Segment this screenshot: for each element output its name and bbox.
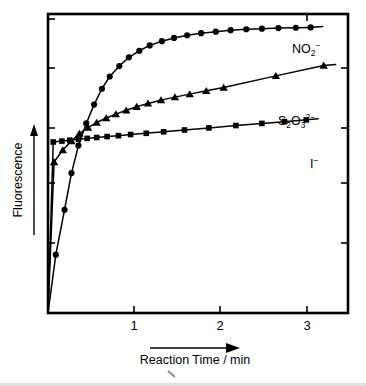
data-point-square	[84, 136, 90, 142]
x-axis-title: Reaction Time / min	[140, 353, 251, 367]
data-point-circle	[243, 26, 249, 32]
data-point-square	[128, 132, 134, 138]
data-point-circle	[126, 54, 132, 60]
data-point-square	[233, 123, 239, 129]
data-point-triangle	[92, 119, 100, 126]
data-point-square	[116, 133, 122, 139]
x-tick-label-3: 3	[303, 318, 310, 333]
data-point-circle	[147, 42, 153, 48]
scan-speck	[168, 371, 175, 377]
series-label-no2: NO2−	[292, 40, 320, 58]
data-point-square	[206, 125, 212, 131]
data-point-square	[94, 135, 100, 141]
series-line-triangle	[48, 65, 324, 313]
series-label-iodide-text: I−	[310, 155, 318, 171]
data-point-circle	[171, 35, 177, 41]
data-point-circle	[99, 86, 105, 92]
data-point-square	[59, 138, 65, 144]
data-point-square	[50, 139, 56, 145]
x-axis-arrow-head	[226, 343, 240, 353]
data-point-circle	[159, 38, 165, 44]
data-point-square	[67, 137, 73, 143]
series-labels: NO2− S2O32− I−	[278, 40, 320, 171]
series-line-circle	[48, 27, 311, 313]
data-point-square	[161, 129, 167, 135]
data-point-square	[182, 127, 188, 133]
s2o3-sup: 2−	[306, 112, 316, 122]
data-point-circle	[68, 170, 74, 176]
data-point-circle	[61, 207, 67, 213]
x-tick-label-2: 2	[216, 318, 223, 333]
data-point-square	[104, 134, 110, 140]
data-point-circle	[228, 27, 234, 33]
no2-sup: −	[315, 40, 320, 50]
series-triangle	[48, 62, 336, 313]
data-point-circle	[293, 25, 299, 31]
data-point-circle	[184, 32, 190, 38]
series-layer	[48, 24, 336, 313]
axis-ticks	[48, 14, 348, 313]
y-axis-arrow-head	[30, 124, 38, 136]
series-line-square	[48, 120, 306, 313]
plot-frame	[48, 14, 348, 313]
data-point-circle	[198, 30, 204, 36]
data-point-circle	[75, 142, 81, 148]
series-label-s2o3: S2O32−	[278, 112, 315, 130]
data-point-circle	[275, 25, 281, 31]
no2-main: NO	[292, 42, 311, 56]
data-point-circle	[308, 24, 314, 30]
data-point-circle	[53, 252, 59, 258]
data-point-circle	[136, 48, 142, 54]
x-tick-labels: 1 2 3	[130, 318, 310, 333]
data-point-square	[259, 121, 265, 127]
y-axis-title-group: Fluorescence	[11, 124, 38, 235]
figure-container: 1 2 3 Fluorescence Reaction Time / min N…	[0, 0, 366, 386]
s2o3-s: S	[278, 114, 286, 128]
data-point-circle	[116, 63, 122, 69]
plot-frame-box	[48, 14, 348, 313]
data-point-square	[76, 136, 82, 142]
data-point-square	[143, 131, 149, 137]
series-label-s2o3-text: S2O32−	[278, 112, 315, 130]
data-point-circle	[107, 73, 113, 79]
x-axis-title-group: Reaction Time / min	[140, 343, 251, 367]
series-square	[48, 117, 318, 313]
y-axis-title: Fluorescence	[11, 142, 25, 217]
chart-svg: 1 2 3 Fluorescence Reaction Time / min N…	[0, 0, 366, 386]
series-circle	[48, 24, 323, 313]
x-tick-label-1: 1	[130, 318, 137, 333]
data-point-circle	[91, 101, 97, 107]
data-point-circle	[259, 26, 265, 32]
iodide-sup: −	[313, 155, 318, 165]
data-point-circle	[213, 29, 219, 35]
data-point-triangle	[102, 114, 110, 121]
series-label-iodide: I−	[310, 155, 318, 171]
s2o3-o: O	[291, 114, 301, 128]
scan-artifacts	[0, 371, 366, 386]
series-label-no2-text: NO2−	[292, 40, 320, 58]
